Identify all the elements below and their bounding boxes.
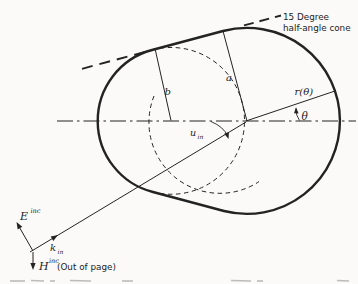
k-in-label-base: k <box>50 242 56 253</box>
k-vector-arrowhead-icon <box>51 235 58 241</box>
cone-annotation-line2: half-angle cone <box>283 23 351 33</box>
cone-line-dashed-extension-left <box>82 51 148 69</box>
h-out-of-page-note: (Out of page) <box>57 262 116 272</box>
theta-arc-arrowhead-icon <box>294 107 299 113</box>
incidence-arc-arrowhead-icon <box>224 132 229 139</box>
dim-b-label: b <box>165 86 171 97</box>
h-field-arrowhead-icon <box>30 263 35 270</box>
cropped-caption-remnant <box>10 281 349 282</box>
cone-line-dashed-extension-right <box>244 16 281 26</box>
h-inc-label-base: H <box>38 260 49 273</box>
theta-label: θ <box>302 110 309 122</box>
cone-sphere-scattering-figure: 15 Degree half-angle cone a b r(θ) θ u i… <box>0 0 358 284</box>
e-inc-label-base: E <box>19 210 28 223</box>
incident-ray-line <box>30 122 246 252</box>
dashed-construction-circle <box>149 96 259 193</box>
u-in-label-sub: in <box>198 133 204 140</box>
k-in-label-sub: in <box>58 248 64 255</box>
radial-r-theta-line <box>246 91 335 121</box>
radius-b-line <box>155 49 171 121</box>
r-theta-label: r(θ) <box>295 86 314 97</box>
dim-a-label: a <box>226 72 232 83</box>
u-in-label-base: u <box>190 127 196 138</box>
e-field-arrowhead-icon <box>17 222 23 229</box>
cone-annotation-line1: 15 Degree <box>283 12 329 22</box>
e-inc-label-sup: inc <box>31 207 41 215</box>
diagram-canvas: 15 Degree half-angle cone a b r(θ) θ u i… <box>0 0 358 284</box>
